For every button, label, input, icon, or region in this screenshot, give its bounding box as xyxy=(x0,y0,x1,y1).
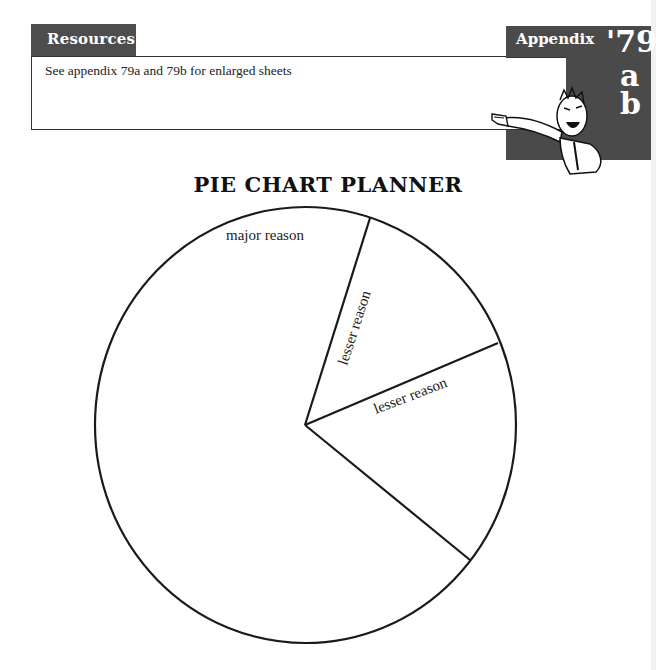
pie-divider-lower xyxy=(305,425,470,560)
pie-divider-right xyxy=(305,343,498,425)
pie-chart: major reason lesser reason lesser reason xyxy=(0,0,656,670)
slice-label-lesser-1: lesser reason xyxy=(335,288,374,367)
slice-label-major: major reason xyxy=(226,227,304,243)
